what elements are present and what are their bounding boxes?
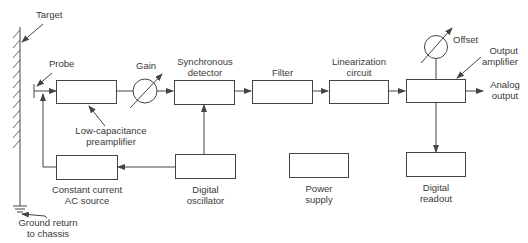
ground-icon <box>13 206 27 212</box>
label-constant-current-source: Constant current AC source <box>48 184 126 206</box>
block-linearization-circuit[interactable] <box>329 80 389 104</box>
block-constant-current-source[interactable] <box>56 155 118 180</box>
block-diagram <box>0 0 528 243</box>
label-filter: Filter <box>252 67 313 78</box>
label-analog-output: Analog output <box>484 79 526 101</box>
block-output-amplifier[interactable] <box>406 79 466 103</box>
label-digital-readout: Digital readout <box>406 182 466 204</box>
offset-potentiometer-icon[interactable] <box>421 28 452 63</box>
block-power-supply[interactable] <box>289 153 349 178</box>
label-power-supply: Power supply <box>289 183 349 205</box>
label-preamplifier: Low-capacitance preamplifier <box>72 125 150 147</box>
label-probe: Probe <box>49 58 74 69</box>
block-digital-readout[interactable] <box>406 152 466 177</box>
label-output-amplifier: Output amplifier <box>482 45 518 67</box>
label-linearization-circuit: Linearization circuit <box>323 56 395 78</box>
gain-potentiometer-icon[interactable] <box>130 74 162 108</box>
block-preamplifier[interactable] <box>56 80 117 104</box>
label-synchronous-detector: Synchronous detector <box>172 56 238 78</box>
label-gain: Gain <box>136 60 156 71</box>
label-target: Target <box>36 9 62 20</box>
block-synchronous-detector[interactable] <box>174 80 235 105</box>
label-ground-return: Ground return to chassis <box>15 217 81 239</box>
label-digital-oscillator: Digital oscillator <box>175 184 236 206</box>
label-offset: Offset <box>453 34 478 45</box>
block-filter[interactable] <box>252 80 313 104</box>
block-digital-oscillator[interactable] <box>175 154 236 179</box>
target-hatching <box>13 30 20 148</box>
